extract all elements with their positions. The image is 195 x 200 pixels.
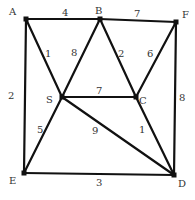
- edge-S-D: [62, 97, 174, 175]
- node-E: [22, 171, 27, 176]
- node-A: [24, 17, 29, 22]
- edge-weight-label: 1: [139, 124, 145, 135]
- edge-A-E: [24, 19, 26, 173]
- edge-weight-label: 2: [8, 90, 14, 101]
- weighted-graph-diagram: 4721826875913ABFSCED: [0, 0, 195, 200]
- edge-weight-label: 7: [134, 8, 140, 19]
- edge-A-S: [26, 19, 62, 97]
- node-F: [174, 20, 179, 25]
- edge-weight-label: 7: [96, 85, 102, 96]
- edge-weight-label: 8: [179, 92, 185, 103]
- node-label-C: C: [139, 95, 147, 106]
- node-S: [60, 95, 65, 100]
- node-B: [98, 17, 103, 22]
- edge-weight-label: 5: [37, 124, 43, 135]
- edge-C-D: [136, 97, 174, 175]
- edge-weight-label: 2: [118, 48, 124, 59]
- node-label-B: B: [95, 5, 102, 16]
- edge-weight-label: 9: [92, 125, 98, 136]
- node-label-E: E: [9, 175, 16, 186]
- node-label-A: A: [8, 6, 17, 17]
- edge-weight-label: 8: [71, 47, 77, 58]
- edge-B-S: [62, 19, 100, 97]
- node-D: [172, 173, 177, 178]
- edge-F-D: [174, 22, 176, 175]
- node-C: [134, 95, 139, 100]
- edge-weight-label: 3: [96, 177, 102, 188]
- node-label-F: F: [182, 9, 189, 20]
- edge-weight-label: 6: [147, 48, 153, 59]
- edge-S-E: [24, 97, 62, 173]
- edge-weight-label: 1: [45, 48, 51, 59]
- edge-weight-label: 4: [62, 7, 68, 18]
- edge-F-C: [136, 22, 176, 97]
- node-label-S: S: [46, 94, 53, 105]
- edge-E-D: [24, 173, 174, 175]
- node-label-D: D: [178, 178, 186, 189]
- edge-B-F: [100, 19, 176, 22]
